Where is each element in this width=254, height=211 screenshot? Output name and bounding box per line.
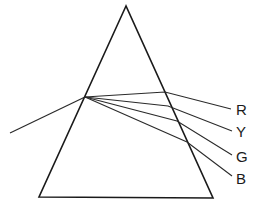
label-yellow: Y [236, 123, 246, 140]
refracted-rays [85, 92, 232, 176]
prism-triangle [39, 6, 213, 198]
ray-green [85, 97, 232, 155]
label-red: R [236, 101, 247, 118]
label-green: G [236, 148, 248, 165]
prism-dispersion-diagram: R Y G B [0, 0, 254, 211]
label-blue: B [236, 170, 246, 187]
ray-labels: R Y G B [236, 101, 248, 187]
ray-yellow [85, 97, 232, 131]
incident-light-ray [10, 97, 85, 133]
ray-blue [85, 97, 232, 176]
